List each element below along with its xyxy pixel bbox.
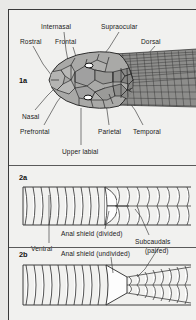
eye-upper	[85, 63, 93, 68]
figure-page: 1a Internasal Supraocular Rostral Fronta…	[0, 0, 196, 320]
ventral-scutes	[25, 187, 99, 225]
subcaudals-paired-shape-2b	[127, 266, 191, 304]
figure-plate: 1a Internasal Supraocular Rostral Fronta…	[8, 9, 196, 320]
ventral-scales-2a	[9, 165, 196, 247]
panel-2b: 2b Anal shield (undivided)	[9, 247, 196, 320]
figure-plate-inner: 1a Internasal Supraocular Rostral Fronta…	[9, 10, 196, 320]
panel-1a: 1a Internasal Supraocular Rostral Fronta…	[9, 10, 196, 165]
ventral-scales-2b	[9, 247, 196, 320]
snake-head-drawing	[9, 10, 196, 165]
subcaudals-paired-shape	[115, 187, 191, 225]
eye-lower	[84, 95, 92, 100]
snake-head	[49, 52, 133, 109]
panel-2a: 2a Anal shield (divided) Ventral Subcaud…	[9, 165, 196, 247]
ventral-scutes-2b	[26, 265, 100, 305]
anal-shield-undivided-shape	[106, 265, 127, 305]
